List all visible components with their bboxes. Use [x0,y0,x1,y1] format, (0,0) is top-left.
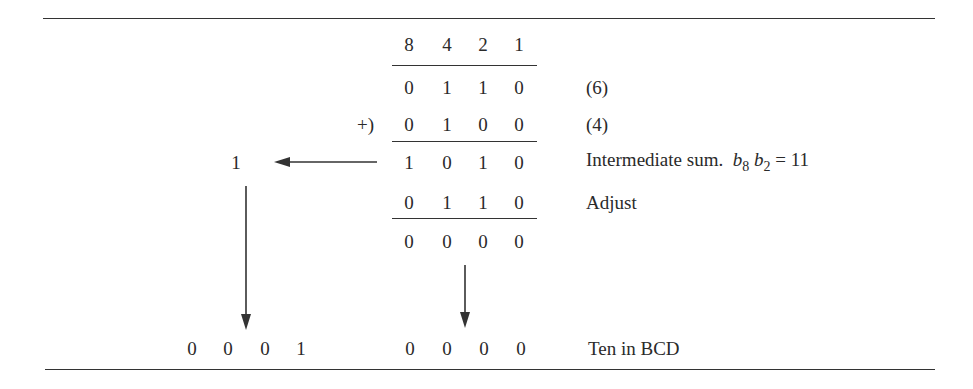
arrows-layer [0,0,973,389]
bcd-high-bit: 0 [260,339,270,358]
bcd-high-bit: 1 [296,339,306,358]
bcd-low-bit: 0 [516,339,526,358]
result-down-arrow-icon [460,265,470,328]
bcd-low-bit: 0 [405,339,415,358]
final-label: Ten in BCD [588,339,680,358]
bcd-high-bit: 0 [187,339,197,358]
carry-left-arrow-icon [274,157,377,167]
bcd-low-bit: 0 [479,339,489,358]
bcd-addition-diagram: 8 4 2 1 0 1 1 0 (6) +) 0 1 0 0 (4) 1 1 0… [0,0,973,389]
bcd-high-bit: 0 [223,339,233,358]
carry-down-arrow-icon [241,186,251,330]
bcd-low-bit: 0 [442,339,452,358]
